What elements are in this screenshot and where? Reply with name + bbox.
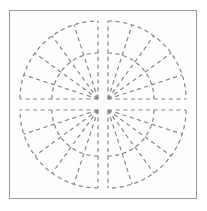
quadrant-spoke [108,110,154,173]
quadrant-spoke [108,110,171,156]
quadrant-spoke [108,53,171,99]
quadrant-spoke [52,36,98,99]
quadrant-spoke [108,110,132,184]
quadrant-spoke [108,75,182,99]
quadrant-spoke [108,36,154,99]
quadrant-outer-arc [20,110,98,188]
radial-fan-diagram [10,11,196,198]
quadrant-outer-arc [20,21,98,99]
quadrant-outer-arc [108,110,186,188]
quadrant-spoke [74,25,98,99]
quadrant-bottom-right [108,110,186,188]
quadrant-spoke [52,110,98,173]
quadrant-bottom-left [20,110,98,188]
quadrant-spoke [24,75,98,99]
quadrant-top-right [108,21,186,99]
fan-layer [20,21,186,188]
quadrant-top-left [20,21,98,99]
quadrant-spoke [74,110,98,184]
quadrant-spoke [35,53,98,99]
quadrant-spoke [35,110,98,156]
quadrant-outer-arc [108,21,186,99]
quadrant-spoke [108,25,132,99]
quadrant-spoke [108,110,182,134]
figure-frame [9,10,197,199]
quadrant-spoke [24,110,98,134]
figure-root [0,0,207,211]
